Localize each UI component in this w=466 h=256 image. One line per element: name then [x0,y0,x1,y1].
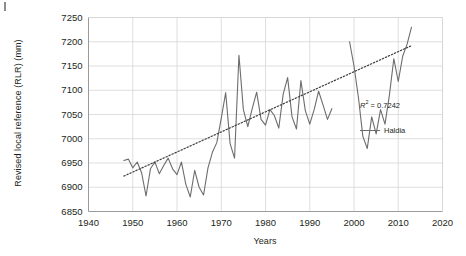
x-tick-label: 1940 [69,217,109,228]
legend-line-swatch [360,130,380,131]
x-tick-label: 2010 [378,217,418,228]
y-tick-label: 6900 [43,181,83,192]
y-tick-label: 6950 [43,157,83,168]
series-line-haldia [124,55,332,197]
x-tick-label: 2020 [423,217,463,228]
x-tick-label: 1950 [113,217,153,228]
y-tick-label: 7250 [43,12,83,23]
legend-label: Haldia [384,126,405,135]
x-tick-label: 1970 [201,217,241,228]
y-tick-label: 7150 [43,60,83,71]
y-tick-label: 6850 [43,206,83,217]
figure-container: Revised local reference (RLR) (mm) Years… [0,0,466,256]
x-tick-label: 2000 [334,217,374,228]
chart-legend: R2 = 0.7242 Haldia [360,99,440,135]
x-tick-label: 1980 [246,217,286,228]
y-axis-title: Revised local reference (RLR) (mm) [13,9,23,217]
x-axis-title: Years [88,236,442,246]
x-tick-label: 1990 [290,217,330,228]
y-tick-label: 7000 [43,133,83,144]
y-tick-label: 7100 [43,84,83,95]
legend-item-haldia: Haldia [360,126,440,135]
x-tick-label: 1960 [157,217,197,228]
y-tick-label: 7050 [43,109,83,120]
y-tick-label: 7200 [43,36,83,47]
r-squared-annotation: R2 = 0.7242 [360,99,440,110]
